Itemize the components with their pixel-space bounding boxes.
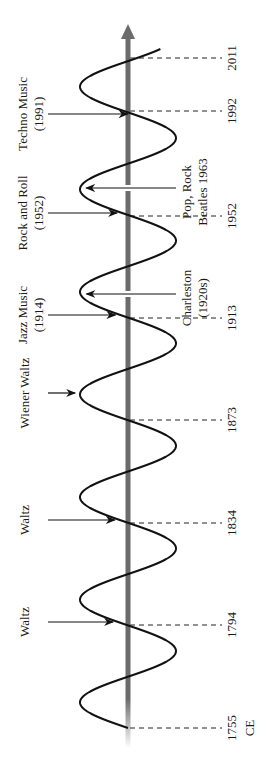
year-label: 1952	[224, 203, 239, 229]
year-label: 2011	[224, 45, 239, 71]
event-label: Charleston	[179, 269, 194, 326]
event-label: Waltz	[17, 607, 32, 637]
event-label: Waltz	[17, 505, 32, 535]
event-label: (1920s)	[195, 278, 210, 318]
era-label: CE	[242, 720, 257, 737]
event-arrows	[48, 114, 176, 622]
year-label: 1834	[224, 510, 239, 537]
year-label: 1794	[224, 612, 239, 639]
year-label: 1755	[224, 715, 239, 741]
event-label: Beatles 1963	[195, 158, 210, 226]
year-labels: 20111992195219131873183417941755CE	[224, 45, 257, 741]
event-label: Jazz Music	[15, 286, 30, 344]
axis-arrowhead-icon	[121, 24, 135, 39]
time-axis	[121, 24, 135, 748]
year-label: 1873	[224, 407, 239, 433]
axis-line	[126, 38, 131, 748]
event-label: Wiener Waltz	[17, 357, 32, 428]
event-label: (1952)	[31, 196, 46, 231]
left-event-labels: Techno Music(1991)Rock and Roll(1952)Jaz…	[15, 77, 46, 637]
event-label: (1991)	[31, 97, 46, 132]
event-label: Techno Music	[15, 77, 30, 151]
year-label: 1913	[224, 305, 239, 331]
event-label: (1914)	[31, 298, 46, 333]
event-label: Pop, Rock	[179, 164, 194, 219]
timeline-diagram: Techno Music(1991)Rock and Roll(1952)Jaz…	[0, 0, 271, 770]
event-label: Rock and Roll	[15, 175, 30, 250]
right-event-labels: Pop, RockBeatles 1963Charleston(1920s)	[179, 158, 210, 326]
year-label: 1992	[224, 98, 239, 124]
